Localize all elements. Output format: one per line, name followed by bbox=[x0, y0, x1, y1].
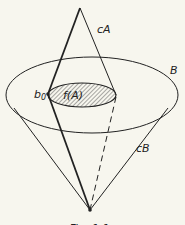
generator-line-bold bbox=[48, 94, 90, 210]
label-cB: cB bbox=[136, 142, 150, 155]
label-b0: b0 bbox=[34, 88, 46, 102]
label-cA: cA bbox=[97, 23, 111, 36]
cone-cB bbox=[14, 108, 168, 210]
label-B: B bbox=[170, 64, 178, 77]
point-bottom-apex bbox=[88, 208, 92, 212]
cone-diagram: cA B f(A) b0 cB Fig. 1.1 bbox=[0, 0, 185, 225]
point-b0 bbox=[46, 92, 50, 96]
label-fA: f(A) bbox=[63, 89, 83, 102]
cone-cA bbox=[48, 8, 116, 95]
figure-caption: Fig. 1.1 bbox=[70, 222, 110, 225]
